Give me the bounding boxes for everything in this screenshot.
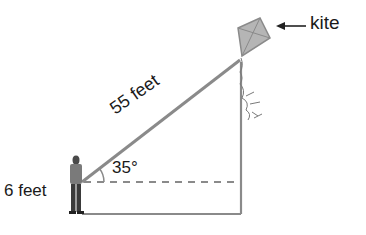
kite-label: kite — [310, 12, 340, 34]
kite-string-hypotenuse — [82, 60, 240, 182]
angle-arc — [99, 168, 104, 182]
kite-tail-bows-icon — [246, 92, 262, 118]
height-label: 6 feet — [4, 181, 47, 201]
kite-diagram: kite 55 feet 35° 6 feet — [0, 0, 366, 235]
diagram-svg — [0, 0, 366, 235]
person-figure-icon — [69, 156, 84, 215]
kite-icon — [238, 18, 270, 56]
angle-label: 35° — [112, 158, 138, 178]
arrow-to-kite-icon — [276, 22, 306, 30]
